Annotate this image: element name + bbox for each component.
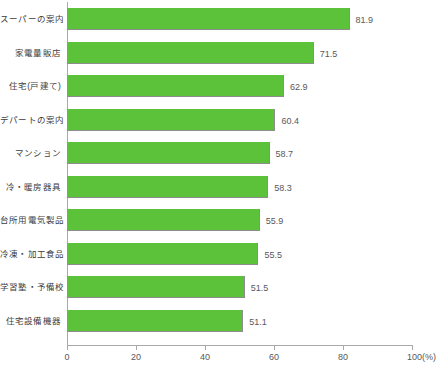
- bar-row: 家電量販店71.5: [0, 42, 436, 64]
- category-label: 台所用電気製品: [0, 209, 61, 231]
- bar-value-label: 58.3: [268, 176, 292, 198]
- bar-track: 81.9: [67, 8, 412, 30]
- bar-row: マンション58.7: [0, 142, 436, 164]
- bar-track: 62.9: [67, 75, 412, 97]
- bar-value-label: 62.9: [284, 75, 308, 97]
- x-axis-tick: [274, 345, 275, 350]
- x-axis-tick-label: 80: [338, 352, 348, 362]
- bar[interactable]: [67, 8, 350, 30]
- bar-row: 学習塾・予備校51.5: [0, 276, 436, 298]
- bar-value-label: 51.5: [245, 276, 269, 298]
- category-label: 家電量販店: [0, 42, 61, 64]
- category-label: スーパーの案内: [0, 8, 61, 30]
- bar-value-label: 71.5: [314, 42, 338, 64]
- category-label: 冷凍・加工食品: [0, 243, 61, 265]
- bar-row: 住宅(戸建て)62.9: [0, 75, 436, 97]
- bar[interactable]: [67, 276, 245, 298]
- bar-track: 55.9: [67, 209, 412, 231]
- bar[interactable]: [67, 310, 243, 332]
- x-axis-tick-label: 60: [269, 352, 279, 362]
- category-label: 学習塾・予備校: [0, 276, 61, 298]
- bar-track: 55.5: [67, 243, 412, 265]
- bar[interactable]: [67, 209, 260, 231]
- x-axis-tick: [136, 345, 137, 350]
- category-label: デパートの案内: [0, 109, 61, 131]
- x-axis-tick: [343, 345, 344, 350]
- bar-row: 冷・暖房器具58.3: [0, 176, 436, 198]
- category-label: 冷・暖房器具: [0, 176, 61, 198]
- bar-row: 冷凍・加工食品55.5: [0, 243, 436, 265]
- bar-row: スーパーの案内81.9: [0, 8, 436, 30]
- x-axis-tick: [67, 345, 68, 350]
- x-axis-tick-label: 0: [64, 352, 69, 362]
- bar[interactable]: [67, 142, 270, 164]
- bar-value-label: 81.9: [350, 8, 374, 30]
- bar-track: 51.5: [67, 276, 412, 298]
- bar-row: 住宅設備機器51.1: [0, 310, 436, 332]
- bar-value-label: 51.1: [243, 310, 267, 332]
- category-label: マンション: [0, 142, 61, 164]
- x-axis-tick-label: 100(%): [407, 352, 436, 362]
- category-label: 住宅(戸建て): [0, 75, 61, 97]
- bar-value-label: 58.7: [270, 142, 294, 164]
- category-label: 住宅設備機器: [0, 310, 61, 332]
- bar-track: 51.1: [67, 310, 412, 332]
- x-axis-tick: [412, 345, 413, 350]
- bar-track: 58.7: [67, 142, 412, 164]
- bar[interactable]: [67, 109, 275, 131]
- bar-value-label: 55.9: [260, 209, 284, 231]
- bar[interactable]: [67, 176, 268, 198]
- x-axis-line: [67, 345, 412, 346]
- bar-value-label: 55.5: [258, 243, 282, 265]
- x-axis-tick-label: 20: [131, 352, 141, 362]
- bar-chart: スーパーの案内81.9家電量販店71.5住宅(戸建て)62.9デパートの案内60…: [0, 0, 436, 375]
- bar-value-label: 60.4: [275, 109, 299, 131]
- x-axis-tick: [205, 345, 206, 350]
- bar-row: デパートの案内60.4: [0, 109, 436, 131]
- bar-track: 58.3: [67, 176, 412, 198]
- bar-track: 60.4: [67, 109, 412, 131]
- bar-track: 71.5: [67, 42, 412, 64]
- bar[interactable]: [67, 42, 314, 64]
- bar-row: 台所用電気製品55.9: [0, 209, 436, 231]
- bar[interactable]: [67, 75, 284, 97]
- bar[interactable]: [67, 243, 258, 265]
- x-axis-tick-label: 40: [200, 352, 210, 362]
